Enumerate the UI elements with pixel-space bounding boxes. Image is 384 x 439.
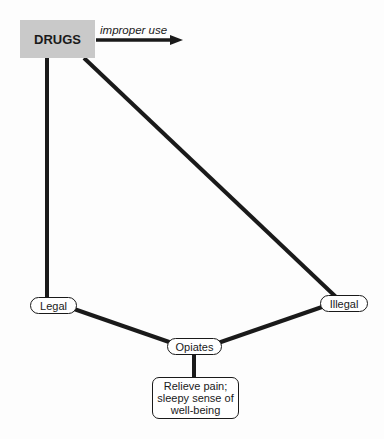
- improper-use-label: improper use: [100, 24, 167, 36]
- drugs-node: DRUGS: [20, 20, 95, 58]
- legal-node: Legal: [30, 297, 77, 314]
- edge-illegal-opiates: [218, 307, 322, 343]
- effect-node: Relieve pain; sleepy sense of well-being: [152, 377, 239, 419]
- edge-legal-opiates: [74, 309, 172, 343]
- arrow-head-icon: [170, 35, 183, 45]
- connector-lines: [0, 0, 384, 439]
- edge-drugs-illegal: [84, 58, 336, 297]
- opiates-node: Opiates: [167, 338, 222, 355]
- illegal-node: Illegal: [320, 295, 368, 312]
